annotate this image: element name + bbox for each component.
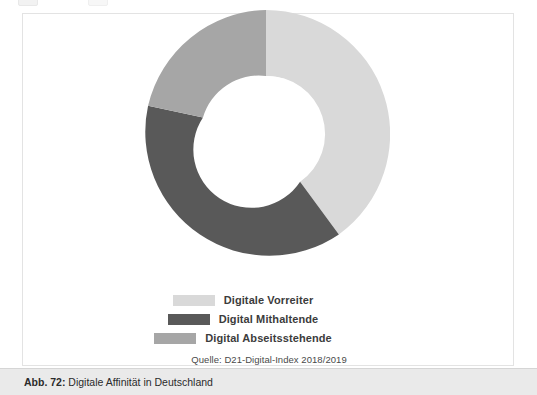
donut-hole (208, 76, 324, 192)
chart-source-note: Quelle: D21-Digital-Index 2018/2019 (23, 354, 515, 365)
legend-swatch-digital-mithaltende (168, 314, 210, 325)
figure-caption-title: Digitale Affinität in Deutschland (68, 376, 213, 388)
donut-chart-svg (142, 10, 390, 258)
figure-caption: Abb. 72: Digitale Affinität in Deutschla… (0, 376, 213, 388)
legend-label-digitale-vorreiter: Digitale Vorreiter (224, 294, 314, 307)
page-top-artifact (0, 0, 537, 10)
figure-caption-number: Abb. 72: (24, 376, 68, 388)
clipped-chip-right (88, 0, 108, 6)
legend-item-digitale-vorreiter[interactable]: Digitale Vorreiter (23, 292, 515, 309)
legend-swatch-digitale-vorreiter (173, 295, 215, 306)
clipped-chip-left (18, 0, 38, 6)
legend-swatch-digital-abseitsstehende (154, 333, 196, 344)
legend-label-digital-abseitsstehende: Digital Abseitsstehende (205, 332, 332, 345)
donut-chart (23, 14, 515, 276)
legend-label-digital-mithaltende: Digital Mithaltende (219, 313, 319, 326)
legend-item-digital-abseitsstehende[interactable]: Digital Abseitsstehende (23, 330, 515, 347)
figure-caption-bar: Abb. 72: Digitale Affinität in Deutschla… (0, 368, 537, 395)
figure-card: Digitale Vorreiter Digital Mithaltende D… (22, 13, 514, 366)
legend-item-digital-mithaltende[interactable]: Digital Mithaltende (23, 311, 515, 328)
chart-legend: Digitale Vorreiter Digital Mithaltende D… (23, 292, 515, 347)
